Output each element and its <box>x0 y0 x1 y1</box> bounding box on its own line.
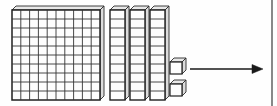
cube-2-front-face <box>170 84 182 96</box>
tens-rod-3 <box>150 6 169 100</box>
ones-cube-1 <box>170 58 186 74</box>
figure-canvas <box>0 0 277 106</box>
cube-1-front-face <box>170 62 182 74</box>
tens-rod-1 <box>110 6 129 100</box>
tens-rod-2 <box>130 6 149 100</box>
hundreds-flat <box>12 6 104 100</box>
base-ten-blocks-figure: Base-ten blocks place value model hundre… <box>0 0 277 106</box>
ones-cube-2 <box>170 80 186 96</box>
